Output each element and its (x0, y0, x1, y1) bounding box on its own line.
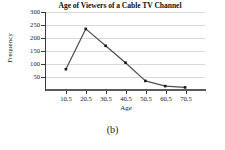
data-point-marker (184, 86, 187, 89)
frequency-markers (65, 28, 187, 89)
data-point-marker (124, 61, 127, 64)
data-point-marker (164, 85, 167, 88)
data-point-marker (144, 80, 147, 83)
data-point-marker (104, 45, 107, 48)
figure-panel: Age of Viewers of a Cable TV Channel 300… (0, 0, 225, 150)
frequency-line (66, 29, 185, 88)
panel-caption: (b) (0, 124, 225, 135)
data-point-marker (65, 68, 68, 71)
data-point-marker (84, 28, 87, 31)
